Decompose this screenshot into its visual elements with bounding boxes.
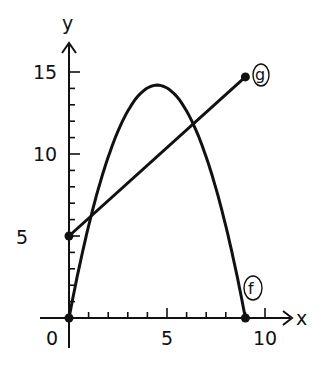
f-label: f — [248, 279, 254, 298]
g-line — [69, 77, 245, 236]
tick-marks — [69, 72, 265, 318]
y-axis-label: y — [62, 12, 73, 34]
y-tick-label-15: 15 — [33, 61, 57, 83]
graph: x y 0 5 10 5 10 15 g f — [0, 0, 322, 379]
y-tick-label-5: 5 — [16, 226, 28, 248]
x-tick-label-10: 10 — [253, 327, 277, 349]
x-tick-label-5: 5 — [161, 327, 173, 349]
g-label: g — [255, 65, 265, 84]
origin-label: 0 — [46, 327, 58, 349]
endpoints — [65, 72, 250, 322]
f-curve — [69, 85, 245, 318]
x-axis-label: x — [296, 307, 307, 329]
y-tick-label-10: 10 — [33, 143, 57, 165]
